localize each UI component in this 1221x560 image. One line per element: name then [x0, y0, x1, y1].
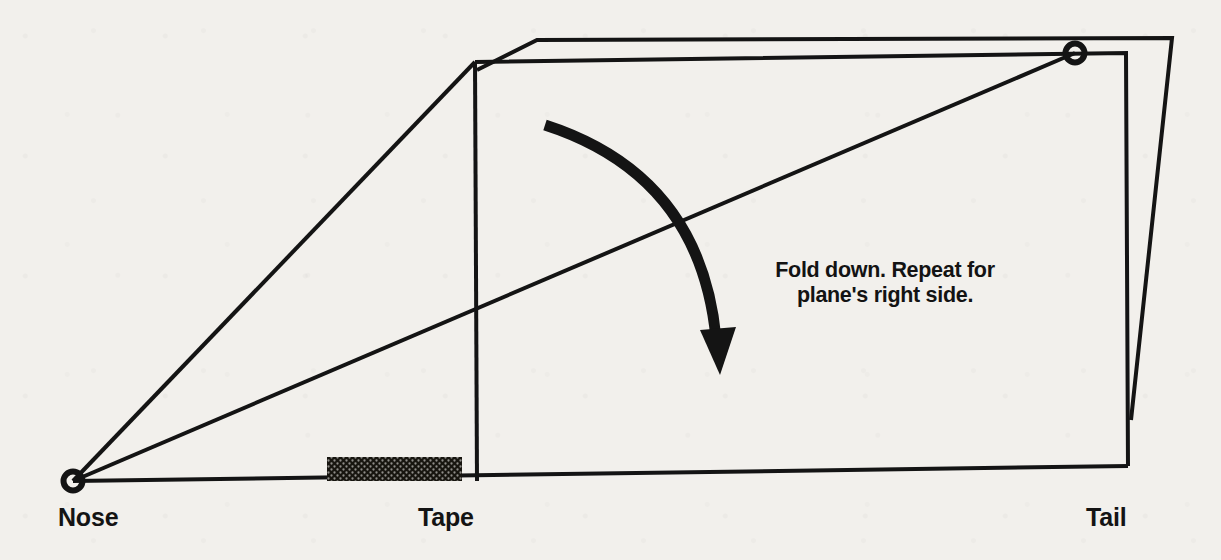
outer-sheet-path: [477, 38, 1172, 420]
tape-label: Tape: [418, 503, 474, 532]
instruction-line-1: Fold down. Repeat for: [745, 258, 1025, 283]
nose-leading-edge-group: [73, 62, 475, 481]
fold-arrow-arc: [545, 125, 716, 338]
tape-block-group: [327, 457, 462, 481]
instruction-caption: Fold down. Repeat for plane's right side…: [745, 258, 1025, 308]
fold-direction-arrow: [545, 125, 736, 375]
plane-baseline: [73, 466, 1128, 481]
tape-block: [327, 457, 462, 481]
instruction-line-2: plane's right side.: [745, 283, 1025, 308]
fold-arrow-head: [700, 327, 736, 375]
tail-label: Tail: [1086, 503, 1126, 532]
inner-panel-left-edge: [475, 62, 477, 481]
fold-diagram-artwork: [0, 0, 1221, 560]
outer-sheet-outline: [477, 38, 1172, 420]
nose-label: Nose: [58, 503, 118, 532]
fold-diagram: Nose Tape Tail Fold down. Repeat for pla…: [0, 0, 1221, 560]
plane-baseline-group: [73, 466, 1128, 481]
nose-leading-edge: [73, 62, 475, 481]
